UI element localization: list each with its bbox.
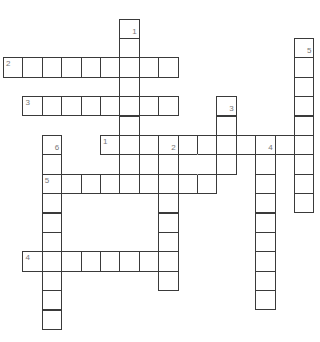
crossword-cell[interactable] bbox=[294, 174, 314, 194]
crossword-cell[interactable] bbox=[42, 57, 62, 77]
crossword-cell[interactable]: 5 bbox=[294, 38, 314, 58]
crossword-cell[interactable] bbox=[119, 154, 139, 174]
crossword-cell[interactable] bbox=[178, 135, 198, 155]
crossword-cell[interactable] bbox=[255, 232, 275, 252]
crossword-cell[interactable] bbox=[81, 174, 101, 194]
crossword-cell[interactable] bbox=[294, 116, 314, 136]
crossword-cell[interactable]: 4 bbox=[22, 251, 42, 271]
crossword-cell[interactable] bbox=[139, 96, 159, 116]
crossword-cell[interactable] bbox=[139, 251, 159, 271]
clue-number: 2 bbox=[171, 144, 175, 152]
crossword-cell[interactable]: 3 bbox=[216, 96, 236, 116]
crossword-cell[interactable] bbox=[42, 290, 62, 310]
crossword-cell[interactable] bbox=[61, 251, 81, 271]
crossword-cell[interactable] bbox=[81, 251, 101, 271]
crossword-cell[interactable] bbox=[255, 174, 275, 194]
crossword-cell[interactable] bbox=[100, 174, 120, 194]
crossword-cell[interactable] bbox=[294, 77, 314, 97]
crossword-cell[interactable] bbox=[255, 251, 275, 271]
clue-number: 6 bbox=[55, 144, 59, 152]
crossword-cell[interactable] bbox=[119, 38, 139, 58]
crossword-cell[interactable]: 1 bbox=[119, 19, 139, 39]
clue-number: 4 bbox=[25, 254, 29, 262]
crossword-cell[interactable] bbox=[178, 154, 198, 174]
crossword-cell[interactable] bbox=[61, 57, 81, 77]
crossword-cell[interactable] bbox=[255, 271, 275, 291]
crossword-cell[interactable] bbox=[42, 271, 62, 291]
crossword-cell[interactable] bbox=[158, 251, 178, 271]
crossword-cell[interactable] bbox=[158, 154, 178, 174]
crossword-cell[interactable] bbox=[294, 57, 314, 77]
crossword-cell[interactable] bbox=[255, 213, 275, 233]
crossword-cell[interactable] bbox=[42, 154, 62, 174]
crossword-cell[interactable] bbox=[42, 193, 62, 213]
crossword-cell[interactable]: 6 bbox=[42, 135, 62, 155]
crossword-cell[interactable] bbox=[119, 77, 139, 97]
crossword-cell[interactable]: 1 bbox=[100, 135, 120, 155]
clue-number: 3 bbox=[25, 99, 29, 107]
crossword-cell[interactable] bbox=[158, 174, 178, 194]
crossword-cell[interactable] bbox=[139, 154, 159, 174]
crossword-cell[interactable]: 2 bbox=[3, 57, 23, 77]
crossword-cell[interactable] bbox=[100, 96, 120, 116]
crossword-cell[interactable]: 2 bbox=[158, 135, 178, 155]
crossword-cell[interactable] bbox=[216, 116, 236, 136]
crossword-cell[interactable] bbox=[255, 154, 275, 174]
crossword-cell[interactable] bbox=[158, 193, 178, 213]
crossword-cell[interactable]: 5 bbox=[42, 174, 62, 194]
clue-number: 2 bbox=[6, 60, 10, 68]
crossword-cell[interactable] bbox=[255, 193, 275, 213]
crossword-cell[interactable] bbox=[100, 57, 120, 77]
crossword-cell[interactable] bbox=[81, 57, 101, 77]
crossword-cell[interactable] bbox=[42, 310, 62, 330]
crossword-cell[interactable] bbox=[294, 135, 314, 155]
crossword-cell[interactable] bbox=[255, 290, 275, 310]
crossword-cell[interactable] bbox=[42, 96, 62, 116]
crossword-cell[interactable] bbox=[275, 135, 295, 155]
crossword-cell[interactable] bbox=[197, 135, 217, 155]
crossword-cell[interactable] bbox=[178, 174, 198, 194]
crossword-cell[interactable]: 3 bbox=[22, 96, 42, 116]
clue-number: 5 bbox=[307, 47, 311, 55]
clue-number: 4 bbox=[268, 144, 272, 152]
crossword-cell[interactable] bbox=[42, 213, 62, 233]
crossword-cell[interactable] bbox=[100, 251, 120, 271]
crossword-cell[interactable] bbox=[119, 174, 139, 194]
crossword-cell[interactable] bbox=[81, 96, 101, 116]
crossword-cell[interactable] bbox=[294, 193, 314, 213]
crossword-cell[interactable] bbox=[119, 57, 139, 77]
crossword-cell[interactable] bbox=[216, 135, 236, 155]
crossword-cell[interactable] bbox=[236, 135, 256, 155]
clue-number: 5 bbox=[45, 177, 49, 185]
crossword-cell[interactable] bbox=[294, 96, 314, 116]
crossword-cell[interactable] bbox=[158, 271, 178, 291]
crossword-cell[interactable] bbox=[119, 251, 139, 271]
crossword-cell[interactable] bbox=[42, 232, 62, 252]
crossword-cell[interactable] bbox=[216, 154, 236, 174]
crossword-cell[interactable] bbox=[197, 154, 217, 174]
crossword-cell[interactable] bbox=[294, 154, 314, 174]
crossword-cell[interactable] bbox=[61, 174, 81, 194]
crossword-cell[interactable] bbox=[158, 232, 178, 252]
crossword-cell[interactable] bbox=[139, 135, 159, 155]
clue-number: 1 bbox=[103, 138, 107, 146]
crossword-cell[interactable] bbox=[42, 251, 62, 271]
crossword-cell[interactable] bbox=[61, 96, 81, 116]
clue-number: 3 bbox=[229, 105, 233, 113]
crossword-cell[interactable] bbox=[119, 96, 139, 116]
crossword-cell[interactable]: 4 bbox=[255, 135, 275, 155]
crossword-cell[interactable] bbox=[119, 135, 139, 155]
crossword-cell[interactable] bbox=[197, 174, 217, 194]
crossword-cell[interactable] bbox=[139, 174, 159, 194]
crossword-cell[interactable] bbox=[139, 57, 159, 77]
crossword-cell[interactable] bbox=[22, 57, 42, 77]
crossword-cell[interactable] bbox=[158, 96, 178, 116]
clue-number: 1 bbox=[132, 28, 136, 36]
crossword-grid: 12335124654 bbox=[0, 0, 320, 342]
crossword-cell[interactable] bbox=[158, 213, 178, 233]
crossword-cell[interactable] bbox=[119, 116, 139, 136]
crossword-cell[interactable] bbox=[158, 57, 178, 77]
